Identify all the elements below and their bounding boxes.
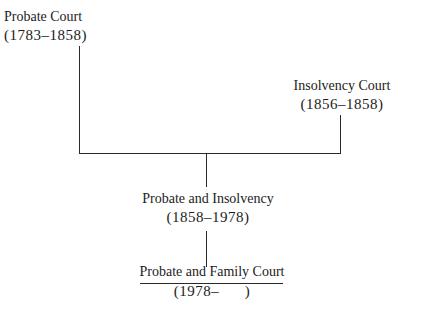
- node-probate-court: Probate Court (1783–1858): [4, 8, 156, 44]
- connector-probate-down: [79, 46, 80, 154]
- underline-probate-family: [140, 283, 283, 284]
- node-dates: (1856–1858): [282, 95, 402, 113]
- node-name: Probate and Family Court: [138, 263, 286, 282]
- connector-insolvency-down: [340, 115, 341, 154]
- node-dates: (1978– ): [138, 282, 286, 300]
- node-name: Probate and Insolvency: [130, 190, 286, 208]
- node-dates: (1783–1858): [4, 26, 156, 44]
- node-name: Probate Court: [4, 8, 156, 26]
- node-insolvency-court: Insolvency Court (1856–1858): [282, 77, 402, 113]
- node-probate-and-insolvency: Probate and Insolvency (1858–1978): [130, 190, 286, 226]
- connector-probate-insolvency-down: [206, 231, 207, 267]
- connector-join-down: [206, 153, 207, 187]
- node-dates: (1858–1978): [130, 208, 286, 226]
- node-name: Insolvency Court: [282, 77, 402, 95]
- connector-horizontal-join: [79, 153, 341, 154]
- node-probate-and-family-court: Probate and Family Court (1978– ): [138, 263, 286, 300]
